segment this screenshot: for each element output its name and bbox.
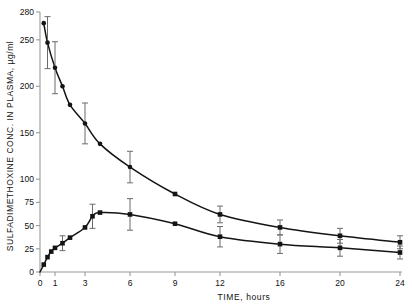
data-point	[98, 210, 103, 215]
x-axis-tick-label: 16	[275, 278, 285, 288]
data-point	[128, 165, 133, 170]
x-axis-title: TIME, hours	[218, 292, 271, 302]
data-point	[98, 142, 103, 147]
data-point	[173, 192, 178, 197]
data-point	[218, 212, 223, 217]
data-point	[128, 212, 133, 217]
x-axis-tick-label: 1	[53, 278, 58, 288]
data-point	[60, 241, 65, 246]
x-axis-tick-label: 3	[83, 278, 88, 288]
x-axis-tick-label: 0	[38, 278, 43, 288]
y-axis-tick-label: 75	[25, 197, 35, 207]
data-point	[60, 84, 65, 89]
data-point	[83, 121, 88, 126]
data-point	[218, 234, 223, 239]
data-point	[398, 250, 403, 255]
x-axis-tick-label: 6	[128, 278, 133, 288]
x-axis-tick-label: 20	[335, 278, 345, 288]
data-point	[68, 235, 73, 240]
data-point	[68, 103, 73, 108]
y-axis-tick-label: 150	[20, 128, 34, 138]
chart-container: 0255075100150200250280 0136912162024 TIM…	[0, 0, 412, 305]
data-point	[45, 255, 50, 260]
x-axis-tick-label: 24	[395, 278, 405, 288]
data-point	[278, 225, 283, 230]
y-axis-tick-label: 280	[20, 7, 34, 17]
y-axis-title: SULFADIMETHOXINE CONC. IN PLASMA, µg/ml	[5, 41, 15, 252]
data-point	[41, 262, 46, 267]
y-axis-tick-label: 50	[25, 221, 35, 231]
y-axis-tick-label: 200	[20, 81, 34, 91]
plasma-concentration-line-chart: 0255075100150200250280 0136912162024 TIM…	[0, 0, 412, 305]
data-point	[90, 214, 95, 219]
data-point	[45, 40, 50, 45]
x-axis-tick-label: 12	[215, 278, 225, 288]
data-point	[338, 233, 343, 238]
data-point	[41, 21, 46, 26]
y-axis-tick-label: 100	[20, 174, 34, 184]
y-axis-tick-label: 0	[29, 267, 34, 277]
data-point	[338, 246, 343, 251]
x-axis-tick-label: 9	[173, 278, 178, 288]
data-point	[398, 240, 403, 245]
data-point	[173, 221, 178, 226]
data-point	[53, 246, 58, 251]
y-axis-tick-label: 250	[20, 35, 34, 45]
data-point	[83, 225, 88, 230]
data-point	[53, 65, 58, 70]
y-axis-tick-label: 25	[25, 244, 35, 254]
chart-background	[0, 0, 412, 305]
data-point	[278, 242, 283, 247]
